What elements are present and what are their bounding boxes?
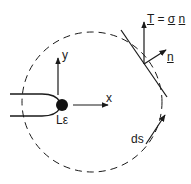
normal-vector-arrow (144, 50, 166, 64)
contour-path-circle (22, 32, 162, 172)
diagram-graphics (0, 0, 191, 184)
crack-lower-face (10, 108, 60, 116)
path-element-label: ds (131, 133, 144, 145)
crack-tip-zone (56, 99, 68, 111)
y-axis-label: y (62, 49, 68, 61)
crack-contour-diagram: T = σ n n y x Lε ds (0, 0, 191, 184)
traction-equals: = (157, 12, 164, 26)
traction-n-symbol: n (179, 12, 186, 26)
crack-upper-face (10, 94, 60, 102)
x-axis-label: x (106, 92, 112, 104)
traction-label: T = σ n (147, 13, 185, 25)
traction-sigma-symbol: σ (168, 12, 175, 26)
path-element-arrow (146, 115, 165, 144)
tip-zone-label: Lε (56, 114, 68, 126)
traction-T-symbol: T (147, 12, 154, 26)
normal-label: n (167, 51, 174, 63)
